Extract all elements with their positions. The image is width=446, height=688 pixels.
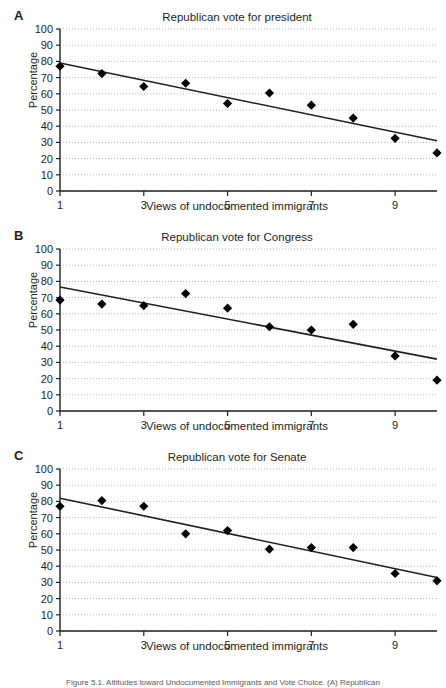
trend-line <box>60 63 437 141</box>
data-point-marker <box>97 299 106 308</box>
y-tick-label: 40 <box>41 120 53 132</box>
y-tick-label: 0 <box>47 405 53 417</box>
data-point-marker <box>307 325 316 334</box>
data-point-marker <box>391 134 400 143</box>
y-tick-label: 60 <box>41 308 53 320</box>
chart-panel-b: B Republican vote for Congress Percentag… <box>0 222 446 442</box>
x-axis-label-c: Views of undocumented immigrants <box>0 640 446 652</box>
plot-area-c: 010203040506070809010013579 <box>0 442 446 662</box>
data-point-marker <box>349 543 358 552</box>
y-tick-label: 10 <box>41 169 53 181</box>
data-point-marker <box>391 351 400 360</box>
y-tick-label: 80 <box>41 55 53 67</box>
y-tick-label: 100 <box>35 243 53 255</box>
y-tick-label: 100 <box>35 463 53 475</box>
data-point-marker <box>55 295 64 304</box>
y-tick-label: 80 <box>41 495 53 507</box>
y-tick-label: 60 <box>41 88 53 100</box>
y-tick-label: 0 <box>47 185 53 197</box>
data-point-marker <box>181 289 190 298</box>
y-tick-label: 70 <box>41 512 53 524</box>
data-point-marker <box>349 114 358 123</box>
y-tick-label: 90 <box>41 259 53 271</box>
data-point-marker <box>265 88 274 97</box>
figure-caption: Figure 5.1. Attitudes toward Undocumente… <box>0 676 446 688</box>
trend-line <box>60 287 437 359</box>
y-tick-label: 60 <box>41 528 53 540</box>
data-point-marker <box>139 502 148 511</box>
data-point-marker <box>349 320 358 329</box>
x-axis-label-a: Views of undocumented immigrants <box>0 200 446 212</box>
chart-panel-a: A Republican vote for president Percenta… <box>0 2 446 222</box>
data-point-marker <box>55 502 64 511</box>
y-tick-label: 50 <box>41 324 53 336</box>
data-point-marker <box>307 101 316 110</box>
y-tick-label: 10 <box>41 609 53 621</box>
data-point-marker <box>223 99 232 108</box>
data-point-marker <box>223 304 232 313</box>
y-tick-label: 100 <box>35 23 53 35</box>
trend-line <box>60 498 437 577</box>
data-point-marker <box>432 148 441 157</box>
y-tick-label: 30 <box>41 356 53 368</box>
data-point-marker <box>432 376 441 385</box>
chart-panel-c: C Republican vote for Senate Percentage … <box>0 442 446 662</box>
y-tick-label: 50 <box>41 104 53 116</box>
data-point-marker <box>97 496 106 505</box>
data-point-marker <box>181 79 190 88</box>
y-tick-label: 40 <box>41 560 53 572</box>
y-tick-label: 90 <box>41 479 53 491</box>
y-tick-label: 0 <box>47 625 53 637</box>
plot-area-a: 010203040506070809010013579 <box>0 2 446 222</box>
y-tick-label: 10 <box>41 389 53 401</box>
y-tick-label: 40 <box>41 340 53 352</box>
y-tick-label: 70 <box>41 292 53 304</box>
y-tick-label: 30 <box>41 576 53 588</box>
y-tick-label: 50 <box>41 544 53 556</box>
data-point-marker <box>265 322 274 331</box>
y-tick-label: 90 <box>41 39 53 51</box>
data-point-marker <box>181 529 190 538</box>
data-point-marker <box>391 569 400 578</box>
data-point-marker <box>139 82 148 91</box>
x-axis-label-b: Views of undocumented immigrants <box>0 420 446 432</box>
y-tick-label: 70 <box>41 72 53 84</box>
figure-container: A Republican vote for president Percenta… <box>0 0 446 688</box>
y-tick-label: 30 <box>41 136 53 148</box>
y-tick-label: 20 <box>41 593 53 605</box>
y-tick-label: 80 <box>41 275 53 287</box>
data-point-marker <box>265 545 274 554</box>
plot-area-b: 010203040506070809010013579 <box>0 222 446 442</box>
y-tick-label: 20 <box>41 153 53 165</box>
y-tick-label: 20 <box>41 373 53 385</box>
